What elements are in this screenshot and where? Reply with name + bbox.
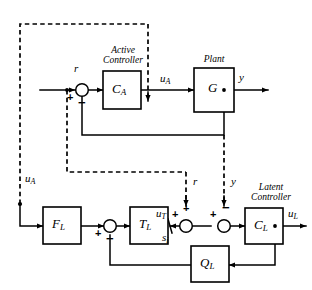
tap-dot-y [222, 88, 226, 92]
signal-label-ut: uT [156, 208, 166, 221]
signal-label-r-input: r [74, 63, 78, 76]
sign-fl-tl-plus: + [95, 228, 101, 240]
signal-label-r-mid: r [193, 176, 197, 189]
sign-ut-r-plus-top: + [183, 203, 189, 215]
signal-label-y-output: y [239, 72, 244, 85]
signal-label-si: si [162, 232, 169, 245]
sign-ut-r-plus-left: + [172, 209, 178, 221]
sign-cl-minus: − [222, 201, 230, 215]
sum-junction-cl [218, 220, 231, 233]
block-label-cl: CL [254, 218, 268, 233]
block-label-ql: QL [200, 256, 214, 271]
sign-fl-tl-minus: − [106, 232, 114, 246]
block-label-fl: FL [52, 217, 65, 232]
block-diagram-figure: Active Controller Plant Latent Controlle… [0, 0, 312, 290]
signal-label-ua-top: uA [160, 73, 170, 86]
tap-dot-ul [273, 224, 277, 228]
block-title-latent-controller: Latent Controller [240, 183, 302, 203]
sign-cl-plus: + [210, 209, 216, 221]
signal-label-ul: uL [288, 208, 298, 221]
sign-active-minus: − [78, 96, 86, 110]
tap-dot-ua [18, 202, 22, 206]
block-title-plant: Plant [184, 55, 244, 65]
block-label-tl: TL [139, 217, 151, 232]
signal-label-ua-left: uA [25, 173, 35, 186]
signal-label-y-mid: y [231, 176, 236, 189]
diagram-canvas [0, 0, 312, 290]
block-label-ca: CA [112, 82, 126, 97]
sign-active-plus: + [67, 92, 73, 104]
block-label-g: G [208, 81, 217, 96]
u-a-left-path [20, 204, 43, 226]
block-title-active-controller: Active Controller [88, 46, 158, 66]
sum-junction-ut-r [180, 220, 193, 233]
